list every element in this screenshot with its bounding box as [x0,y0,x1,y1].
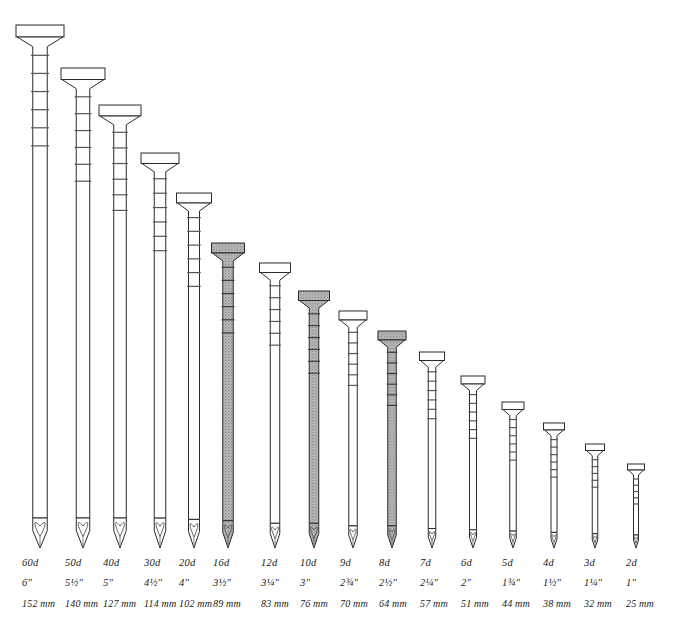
label-inches: 2¼″ [420,577,439,588]
nail-head [461,376,485,384]
label-millimeters: 83 mm [261,598,289,609]
nail-head [99,105,141,116]
label-inches: 1″ [626,577,636,588]
label-millimeters: 76 mm [300,598,328,609]
nail-head [212,243,245,253]
label-penny-size: 16d [213,557,230,568]
label-inches: 6″ [22,577,32,588]
label-millimeters: 38 mm [542,598,571,609]
label-inches: 3¼″ [260,577,280,588]
label-inches: 3½″ [212,577,232,588]
nail-size-chart: 60d6″152 mm50d5½″140 mm40d5″127 mm30d4½″… [0,0,678,619]
label-inches: 1¾″ [502,577,521,588]
nail-head [339,311,367,320]
label-penny-size: 30d [143,557,161,568]
label-millimeters: 51 mm [461,598,489,609]
label-inches: 3″ [299,577,310,588]
label-penny-size: 60d [22,557,39,568]
nail-head [544,423,565,430]
label-penny-size: 4d [543,557,554,568]
label-millimeters: 89 mm [213,598,241,609]
nail-head [420,352,445,361]
nail-chart-svg: 60d6″152 mm50d5½″140 mm40d5″127 mm30d4½″… [0,0,678,619]
label-penny-size: 40d [103,557,120,568]
label-penny-size: 5d [502,557,513,568]
label-penny-size: 3d [583,557,595,568]
label-penny-size: 9d [340,557,351,568]
label-penny-size: 10d [300,557,317,568]
nail-head [16,25,64,37]
label-penny-size: 12d [261,557,278,568]
label-millimeters: 25 mm [626,598,654,609]
label-inches: 5″ [103,577,113,588]
chart-background [0,0,678,619]
label-penny-size: 2d [626,557,637,568]
label-millimeters: 140 mm [65,598,98,609]
label-inches: 2½″ [379,577,398,588]
label-millimeters: 32 mm [583,598,612,609]
label-inches: 2″ [461,577,471,588]
nail-head [378,331,406,340]
label-inches: 2¾″ [340,577,359,588]
label-millimeters: 152 mm [22,598,55,609]
nail-head [502,402,524,410]
label-penny-size: 8d [379,557,390,568]
label-millimeters: 57 mm [420,598,448,609]
nail-head [586,444,605,451]
label-inches: 1½″ [543,577,562,588]
label-millimeters: 114 mm [144,598,176,609]
label-inches: 4″ [179,577,189,588]
nail-head [141,153,179,164]
label-millimeters: 64 mm [379,598,407,609]
label-millimeters: 70 mm [340,598,368,609]
label-inches: 5½″ [65,577,84,588]
nail-head [260,263,291,273]
nail-head [177,193,212,203]
label-inches: 1¼″ [584,577,603,588]
nail-head [61,68,105,80]
nail-head [299,291,330,301]
label-millimeters: 127 mm [103,598,136,609]
nail-head [628,464,645,470]
label-inches: 4½″ [144,577,163,588]
label-penny-size: 7d [420,557,431,568]
label-penny-size: 20d [179,557,196,568]
label-penny-size: 6d [461,557,472,568]
label-millimeters: 44 mm [502,598,530,609]
label-penny-size: 50d [65,557,82,568]
label-millimeters: 102 mm [179,598,212,609]
